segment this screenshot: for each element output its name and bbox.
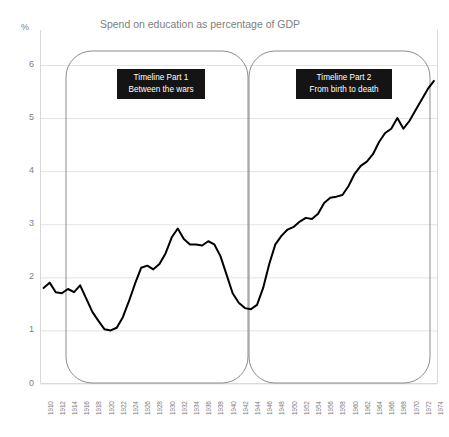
annotation-part-1-line-1: Timeline Part 1 [123, 72, 199, 84]
chart-container: % Spend on education as percentage of GD… [0, 0, 449, 437]
highlight-region-part-1 [66, 51, 248, 383]
annotation-timeline-part-2: Timeline Part 2 From birth to death [296, 69, 392, 99]
annotation-part-2-line-2: From birth to death [302, 84, 386, 96]
annotation-part-1-line-2: Between the wars [123, 84, 199, 96]
highlight-region-part-2 [249, 51, 430, 383]
plot-area [0, 0, 449, 437]
gridlines [41, 66, 438, 385]
annotation-part-2-line-1: Timeline Part 2 [302, 72, 386, 84]
annotation-timeline-part-1: Timeline Part 1 Between the wars [117, 69, 205, 99]
